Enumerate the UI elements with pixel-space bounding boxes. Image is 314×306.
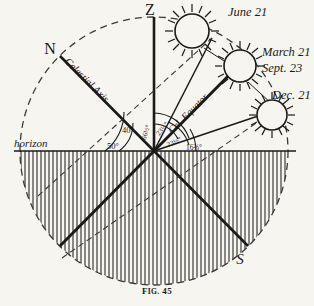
sun-label-dec-21: Dec. 21: [271, 88, 311, 102]
celestial-sphere-diagram: Z N S horizon Celestial Axis Cel. Equato…: [0, 0, 314, 306]
figure-caption: FIG. 45: [0, 286, 314, 296]
sun-june-21: [165, 4, 219, 58]
angle-label-40: 40°: [122, 125, 134, 135]
horizon-label: horizon: [14, 137, 48, 149]
angle-label-66-half: 66½°: [140, 124, 152, 141]
zenith-label: Z: [145, 1, 155, 18]
south-label: S: [236, 251, 244, 267]
figure-caption-rest: IG.: [148, 287, 160, 296]
celestial-axis-label: Celestial Axis: [63, 56, 112, 105]
astronomy-figure: Z N S horizon Celestial Axis Cel. Equato…: [0, 0, 314, 306]
sun-label-sept-23: Sept. 23: [262, 61, 302, 75]
celestial-equator-label: Cel. Equator: [166, 91, 210, 135]
sun-label-june-21: June 21: [228, 5, 267, 19]
angle-label-16-two-thirds: 16⅔°: [186, 143, 202, 152]
north-label: N: [44, 40, 56, 57]
figure-number: 45: [162, 286, 172, 296]
below-horizon-hatching: [18, 151, 290, 291]
angle-label-50: 50°: [107, 141, 119, 151]
sun-label-march-21: March 21: [261, 45, 311, 59]
